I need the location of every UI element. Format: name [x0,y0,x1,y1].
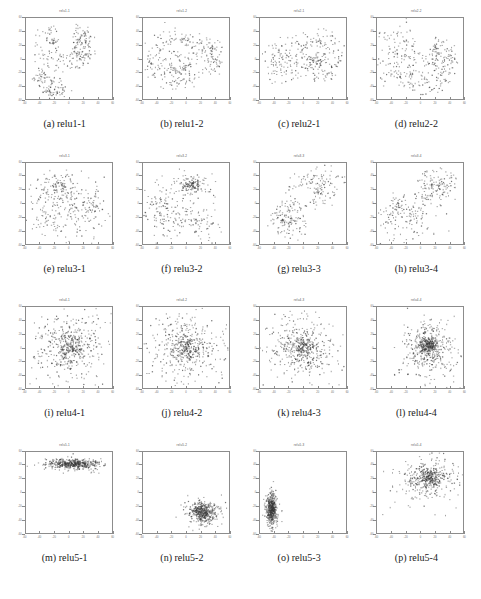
y-axis-tick-labels: -60-40-200204060 [247,17,256,100]
panel-caption: (p) relu5-4 [395,552,438,564]
panel-caption: (k) relu4-3 [278,407,321,419]
y-tick-label: -20 [135,504,139,507]
x-tick-label: 0 [302,536,303,539]
x-tick-label: 60 [111,102,114,105]
panel-title: relu5-2 [130,443,234,448]
x-tick-label: 20 [82,536,85,539]
scatter-panel-m: relu5-1-60-40-200204060-60-40-200204060 [13,442,117,546]
x-axis-tick-labels: -60-40-200204060 [259,536,347,540]
y-tick-label: 40 [370,174,373,177]
x-axis-tick-labels: -60-40-200204060 [259,102,347,106]
scatter-points [143,163,229,244]
y-tick-label: 0 [137,491,138,494]
scatter-points [260,452,346,533]
panel-title: relu1-1 [13,9,117,14]
x-tick-label: 0 [185,247,186,250]
x-axis-tick-labels: -60-40-200204060 [142,102,230,106]
panel-title: relu4-2 [130,298,234,303]
y-tick-label: -20 [370,360,374,363]
x-axis-tick-labels: -60-40-200204060 [25,536,113,540]
x-tick-label: -20 [287,102,291,105]
y-axis-tick-labels: -60-40-200204060 [130,306,139,389]
scatter-points [377,163,463,244]
x-tick-label: -20 [169,102,173,105]
y-tick-label: 0 [372,491,373,494]
x-tick-label: 0 [302,391,303,394]
panel-title: relu4-3 [247,298,351,303]
y-tick-label: 20 [136,477,139,480]
y-tick-label: -40 [135,229,139,232]
x-tick-label: 40 [97,391,100,394]
y-tick-label: 0 [372,346,373,349]
plot-axes-frame [376,162,464,245]
y-tick-label: 60 [136,305,139,308]
x-tick-label: -20 [287,391,291,394]
panel-title: relu5-3 [247,443,351,448]
x-tick-label: 20 [316,391,319,394]
scatter-plot-grid: relu1-1-60-40-200204060-60-40-200204060(… [0,0,481,586]
x-tick-label: 20 [316,536,319,539]
x-tick-label: 20 [199,536,202,539]
x-tick-label: 40 [214,247,217,250]
x-axis-tick-labels: -60-40-200204060 [376,536,464,540]
y-tick-label: -60 [18,388,22,391]
scatter-points [26,163,112,244]
x-tick-label: 20 [199,102,202,105]
y-tick-label: 60 [370,449,373,452]
y-tick-label: 0 [20,491,21,494]
x-tick-label: -20 [287,536,291,539]
y-tick-label: -20 [18,360,22,363]
scatter-panel-b: relu1-2-60-40-200204060-60-40-200204060 [130,8,234,112]
x-tick-label: 40 [331,536,334,539]
x-tick-label: -20 [404,536,408,539]
scatter-points [143,307,229,388]
y-tick-label: -40 [18,229,22,232]
x-tick-label: 0 [185,102,186,105]
y-tick-label: 0 [137,57,138,60]
x-tick-label: -60 [375,536,379,539]
panel-caption: (d) relu2-2 [395,118,438,130]
y-tick-label: -20 [370,215,374,218]
x-tick-label: -40 [155,536,159,539]
x-tick-label: 40 [331,391,334,394]
x-tick-label: -60 [140,536,144,539]
y-axis-tick-labels: -60-40-200204060 [364,306,373,389]
y-axis-tick-labels: -60-40-200204060 [247,451,256,534]
scatter-points [377,307,463,388]
x-tick-label: -60 [23,247,27,250]
x-tick-label: -40 [37,102,41,105]
x-axis-tick-labels: -60-40-200204060 [25,391,113,395]
panel-caption: (m) relu5-1 [42,552,88,564]
x-axis-tick-labels: -60-40-200204060 [376,391,464,395]
x-tick-label: 0 [420,247,421,250]
x-tick-label: -40 [155,391,159,394]
x-axis-tick-labels: -60-40-200204060 [142,391,230,395]
y-tick-label: 20 [370,188,373,191]
y-axis-tick-labels: -60-40-200204060 [13,17,22,100]
x-tick-label: -20 [52,247,56,250]
x-tick-label: 0 [68,391,69,394]
x-tick-label: 60 [346,102,349,105]
y-tick-label: 60 [253,449,256,452]
y-tick-label: -40 [18,85,22,88]
y-tick-label: 20 [253,477,256,480]
y-tick-label: -60 [18,243,22,246]
y-tick-label: 0 [20,346,21,349]
x-tick-label: -40 [37,391,41,394]
y-tick-label: 20 [19,43,22,46]
x-tick-label: 20 [434,102,437,105]
y-tick-label: 0 [20,57,21,60]
plot-axes-frame [259,162,347,245]
plot-axes-frame [142,306,230,389]
y-tick-label: 60 [136,16,139,19]
y-tick-label: 0 [255,202,256,205]
panel-cell: relu1-1-60-40-200204060-60-40-200204060(… [6,8,123,153]
y-tick-label: 20 [253,188,256,191]
x-tick-label: 40 [331,102,334,105]
x-tick-label: 60 [463,536,466,539]
x-tick-label: 0 [302,102,303,105]
plot-axes-frame [142,17,230,100]
y-tick-label: 20 [370,332,373,335]
x-tick-label: -60 [257,391,261,394]
y-tick-label: 60 [136,449,139,452]
